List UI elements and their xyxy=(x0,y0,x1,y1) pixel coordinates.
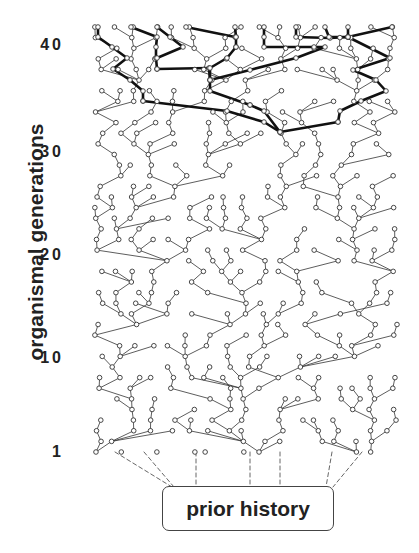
prior-history-connectors xyxy=(115,452,362,487)
tick-label-1: 1 xyxy=(12,443,64,461)
tick-label-10: 10 xyxy=(12,349,64,367)
genealogy-diagram xyxy=(0,0,419,553)
prior-history-box: prior history xyxy=(162,486,334,531)
caption-fragment xyxy=(0,546,419,553)
tick-label-20: 20 xyxy=(12,246,64,264)
tick-label-40: 40 xyxy=(12,36,64,54)
prior-history-label: prior history xyxy=(186,497,310,521)
tick-label-30: 30 xyxy=(12,143,64,161)
